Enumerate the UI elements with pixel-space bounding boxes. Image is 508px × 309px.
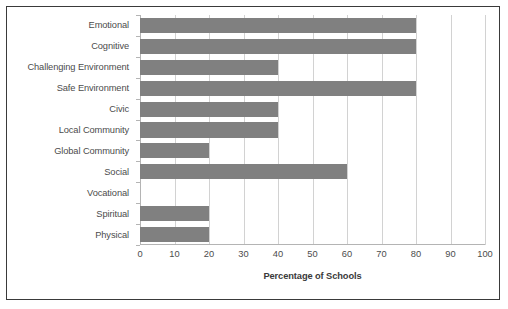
x-axis-title: Percentage of Schools <box>140 271 485 281</box>
table-row <box>140 36 485 57</box>
x-tick-label: 80 <box>411 249 421 259</box>
table-row <box>140 161 485 182</box>
category-label: Social <box>21 161 135 182</box>
bar-series <box>140 15 485 245</box>
bar <box>140 164 347 179</box>
chart-plot-wrapper: EmotionalCognitiveChallenging Environmen… <box>7 7 499 299</box>
bar <box>140 60 278 75</box>
x-tick-label: 60 <box>342 249 352 259</box>
bar <box>140 143 209 158</box>
plot-area <box>140 15 485 245</box>
axis-baseline <box>140 244 485 245</box>
table-row <box>140 78 485 99</box>
chart-frame: EmotionalCognitiveChallenging Environmen… <box>6 6 500 300</box>
table-row <box>140 99 485 120</box>
x-tick-label: 20 <box>204 249 214 259</box>
category-label: Physical <box>21 224 135 245</box>
bar <box>140 39 416 54</box>
category-label: Global Community <box>21 140 135 161</box>
table-row <box>140 203 485 224</box>
table-row <box>140 120 485 141</box>
bar <box>140 206 209 221</box>
bar <box>140 102 278 117</box>
x-tick-label: 0 <box>137 249 142 259</box>
x-tick-label: 40 <box>273 249 283 259</box>
table-row <box>140 182 485 203</box>
x-tick-label: 90 <box>445 249 455 259</box>
x-tick-label: 10 <box>169 249 179 259</box>
category-axis-labels: EmotionalCognitiveChallenging Environmen… <box>21 15 135 245</box>
gridline <box>485 15 486 245</box>
table-row <box>140 140 485 161</box>
category-label: Vocational <box>21 182 135 203</box>
category-label: Challenging Environment <box>21 57 135 78</box>
x-tick-label: 100 <box>477 249 493 259</box>
category-label: Local Community <box>21 120 135 141</box>
table-row <box>140 57 485 78</box>
bar <box>140 227 209 242</box>
table-row <box>140 15 485 36</box>
category-label: Safe Environment <box>21 78 135 99</box>
table-row <box>140 224 485 245</box>
x-axis-tick-labels: 0102030405060708090100 <box>140 249 485 263</box>
bar <box>140 122 278 137</box>
x-tick-label: 70 <box>376 249 386 259</box>
bar <box>140 18 416 33</box>
category-label: Civic <box>21 99 135 120</box>
category-label: Emotional <box>21 15 135 36</box>
x-tick-label: 50 <box>307 249 317 259</box>
category-label: Cognitive <box>21 36 135 57</box>
category-label: Spiritual <box>21 203 135 224</box>
axis-tick <box>136 245 140 246</box>
bar <box>140 81 416 96</box>
x-tick-label: 30 <box>238 249 248 259</box>
